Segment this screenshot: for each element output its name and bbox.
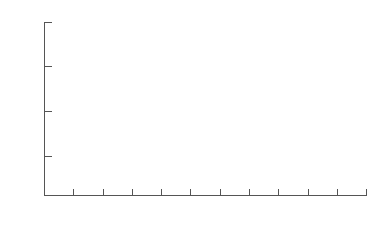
x-axis-ticks (45, 189, 367, 196)
y-axis-ticks (45, 23, 53, 157)
line-chart (0, 0, 383, 241)
chart-svg (0, 0, 383, 241)
